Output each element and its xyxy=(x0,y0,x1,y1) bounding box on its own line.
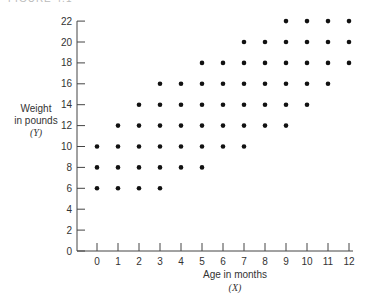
data-point xyxy=(326,19,331,24)
x-tick-label: 5 xyxy=(199,256,205,267)
data-point xyxy=(179,165,184,170)
data-point xyxy=(305,61,310,66)
data-point xyxy=(263,40,268,45)
data-point xyxy=(95,186,100,191)
y-axis-label: Weight in pounds (Y) xyxy=(6,103,66,139)
x-tick-label: 2 xyxy=(136,256,142,267)
y-axis-label-line-1: Weight xyxy=(6,103,66,115)
data-point xyxy=(158,102,163,107)
x-tick-label: 3 xyxy=(157,256,163,267)
x-tick-label: 1 xyxy=(115,256,121,267)
data-point xyxy=(242,40,247,45)
data-point xyxy=(284,19,289,24)
data-point xyxy=(263,61,268,66)
y-tick-label: 20 xyxy=(61,37,73,48)
data-point xyxy=(200,82,205,87)
data-point xyxy=(158,144,163,149)
data-point xyxy=(305,19,310,24)
data-point xyxy=(284,82,289,87)
data-point xyxy=(116,165,121,170)
data-point xyxy=(179,123,184,128)
x-tick-label: 11 xyxy=(323,256,334,267)
data-point xyxy=(179,102,184,107)
data-point xyxy=(242,144,247,149)
data-point xyxy=(137,165,142,170)
x-tick-label: 0 xyxy=(94,256,100,267)
data-point xyxy=(221,102,226,107)
y-axis-label-var: (Y) xyxy=(6,127,66,139)
data-point xyxy=(284,102,289,107)
data-point xyxy=(137,144,142,149)
data-point xyxy=(242,102,247,107)
data-point xyxy=(116,144,121,149)
y-tick-label: 4 xyxy=(66,204,72,215)
y-tick-label: 8 xyxy=(66,162,72,173)
data-point xyxy=(200,102,205,107)
y-tick-label: 22 xyxy=(61,16,73,27)
y-tick-label: 16 xyxy=(61,78,73,89)
data-point xyxy=(263,82,268,87)
x-axis-label: Age in months (X) xyxy=(180,268,290,294)
data-point xyxy=(200,165,205,170)
data-point xyxy=(221,144,226,149)
scatter-chart: 02468101214161820220123456789101112 xyxy=(0,0,365,298)
data-points xyxy=(95,19,352,191)
data-point xyxy=(347,40,352,45)
y-axis-label-line-2: in pounds xyxy=(6,115,66,127)
data-point xyxy=(221,123,226,128)
data-point xyxy=(158,123,163,128)
data-point xyxy=(221,61,226,66)
data-point xyxy=(242,82,247,87)
data-point xyxy=(263,123,268,128)
y-tick-label: 6 xyxy=(66,183,72,194)
data-point xyxy=(284,61,289,66)
data-point xyxy=(242,61,247,66)
data-point xyxy=(137,102,142,107)
data-point xyxy=(326,40,331,45)
data-point xyxy=(347,19,352,24)
y-tick-label: 18 xyxy=(61,57,73,68)
data-point xyxy=(305,40,310,45)
x-tick-label: 6 xyxy=(220,256,226,267)
data-point xyxy=(158,186,163,191)
y-tick-label: 2 xyxy=(66,225,72,236)
x-tick-label: 12 xyxy=(343,256,355,267)
data-point xyxy=(95,165,100,170)
data-point xyxy=(326,61,331,66)
data-point xyxy=(347,61,352,66)
data-point xyxy=(116,186,121,191)
data-point xyxy=(242,123,247,128)
data-point xyxy=(200,123,205,128)
axes: 02468101214161820220123456789101112 xyxy=(61,16,355,267)
x-tick-label: 4 xyxy=(178,256,184,267)
y-tick-label: 0 xyxy=(66,246,72,257)
x-tick-label: 9 xyxy=(283,256,289,267)
data-point xyxy=(200,144,205,149)
x-axis-label-text: Age in months xyxy=(180,268,290,281)
data-point xyxy=(326,82,331,87)
data-point xyxy=(179,144,184,149)
y-tick-label: 10 xyxy=(61,141,73,152)
data-point xyxy=(116,123,121,128)
data-point xyxy=(305,102,310,107)
data-point xyxy=(158,82,163,87)
x-tick-label: 7 xyxy=(241,256,247,267)
data-point xyxy=(200,61,205,66)
data-point xyxy=(305,82,310,87)
data-point xyxy=(137,186,142,191)
x-axis-label-var: (X) xyxy=(180,281,290,294)
data-point xyxy=(137,123,142,128)
x-tick-label: 10 xyxy=(301,256,313,267)
x-tick-label: 8 xyxy=(262,256,268,267)
data-point xyxy=(95,144,100,149)
data-point xyxy=(284,123,289,128)
data-point xyxy=(284,40,289,45)
data-point xyxy=(263,102,268,107)
data-point xyxy=(221,82,226,87)
data-point xyxy=(179,82,184,87)
data-point xyxy=(158,165,163,170)
